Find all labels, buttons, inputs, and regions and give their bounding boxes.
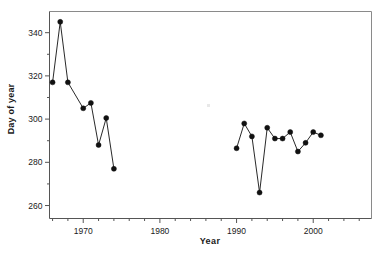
data-series [234, 121, 323, 195]
axis-tick-labels: 2602803003203401970198019902000 [28, 28, 323, 236]
data-point [65, 80, 70, 85]
plot-frame [50, 12, 372, 219]
data-point [234, 146, 239, 151]
y-tick-label: 300 [28, 114, 42, 124]
data-point [265, 125, 270, 130]
data-series-group [50, 19, 323, 195]
plot-canvas: 2602803003203401970198019902000 [0, 0, 384, 260]
series-line [53, 22, 114, 169]
series-line [237, 123, 321, 192]
data-point [58, 19, 63, 24]
x-tick-label: 1980 [150, 226, 169, 236]
axis-ticks [45, 33, 359, 223]
data-point [50, 80, 55, 85]
data-point [111, 166, 116, 171]
data-point [288, 130, 293, 135]
data-point [272, 136, 277, 141]
data-point [242, 121, 247, 126]
data-point [249, 134, 254, 139]
y-tick-label: 340 [28, 28, 42, 38]
data-point [96, 143, 101, 148]
x-axis-title: Year [49, 236, 371, 246]
y-tick-label: 260 [28, 201, 42, 211]
image-artifact [207, 104, 210, 107]
data-point [303, 140, 308, 145]
x-axis-title-text: Year [200, 236, 221, 246]
data-point [280, 136, 285, 141]
y-tick-label: 280 [28, 157, 42, 167]
data-point [81, 106, 86, 111]
x-tick-label: 2000 [304, 226, 323, 236]
x-tick-label: 1990 [227, 226, 246, 236]
data-point [311, 130, 316, 135]
data-point [88, 100, 93, 105]
x-tick-label: 1970 [74, 226, 93, 236]
y-tick-label: 320 [28, 71, 42, 81]
data-point [257, 190, 262, 195]
data-point [104, 116, 109, 121]
data-point [295, 149, 300, 154]
data-series [50, 19, 116, 171]
data-point [318, 133, 323, 138]
chart-figure: Day of year 2602803003203401970198019902… [0, 0, 384, 260]
